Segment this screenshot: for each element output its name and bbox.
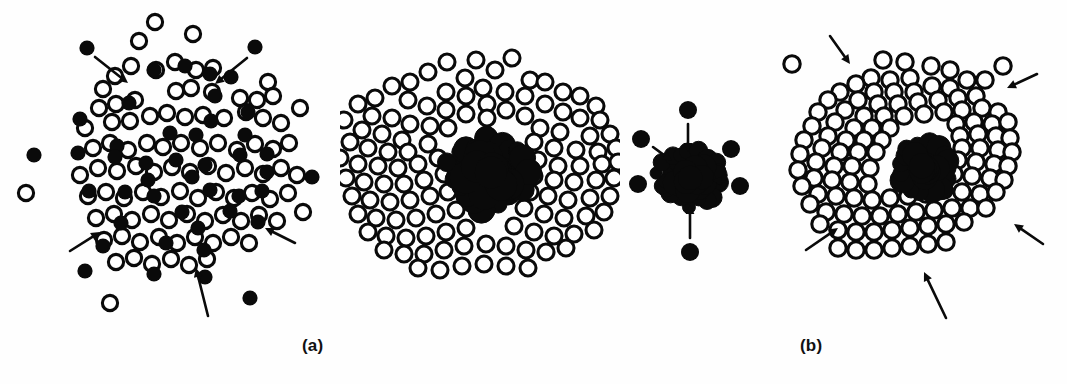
arrow-bottom-right	[273, 232, 295, 243]
open-circle-particle	[269, 213, 284, 228]
filled-circle-particle	[190, 220, 205, 235]
open-circle-particle	[959, 72, 975, 88]
open-circle-particle	[842, 174, 858, 190]
open-circle-particle	[241, 235, 256, 250]
open-circle-particle	[295, 204, 310, 219]
open-circle-particle	[454, 258, 470, 274]
open-circle-particle	[558, 240, 574, 256]
panel-label-b: (b)	[800, 336, 822, 356]
open-circle-particle	[161, 212, 176, 227]
panel-a-right-canvas	[340, 0, 620, 384]
open-circle-particle	[954, 184, 970, 200]
aggregated-cluster-fill	[678, 166, 702, 190]
open-circle-particle	[522, 72, 538, 88]
open-circle-particle	[572, 110, 588, 126]
open-circle-particle	[517, 88, 533, 104]
open-circle-particle	[498, 258, 514, 274]
open-circle-particle	[988, 184, 1004, 200]
panel-label-a: (a)	[302, 336, 323, 356]
filled-circle-particle	[231, 188, 246, 203]
open-circle-particle	[475, 80, 491, 96]
arrow-bottom-left	[70, 237, 92, 251]
open-circle-particle	[438, 84, 454, 100]
open-circle-particle	[143, 206, 158, 221]
open-circle-particle	[902, 238, 918, 254]
open-circle-particle	[402, 74, 418, 90]
open-circle-particle	[155, 139, 170, 154]
open-circle-particle	[520, 260, 536, 276]
open-circle-particle	[866, 242, 882, 258]
open-circle-particle	[360, 140, 376, 156]
open-circle-particle	[846, 190, 862, 206]
filled-circle-particle	[259, 146, 274, 161]
open-circle-particle	[456, 238, 472, 254]
open-circle-particle	[792, 146, 808, 162]
open-circle-particle	[419, 98, 435, 114]
filled-circle-particle	[158, 235, 173, 250]
open-circle-particle	[479, 110, 495, 126]
open-circle-particle	[410, 156, 426, 172]
open-circle-particle	[402, 192, 418, 208]
open-circle-particle	[402, 116, 418, 132]
filled-circle-particle	[202, 66, 217, 81]
filled-circle-particle	[70, 145, 85, 160]
filled-circle-particle	[162, 125, 177, 140]
filled-circle-particle	[304, 169, 319, 184]
aggregated-cluster-fill	[475, 157, 507, 189]
open-circle-particle	[273, 115, 288, 130]
arrow-bottom	[928, 280, 946, 318]
open-circle-particle	[114, 228, 129, 243]
open-circle-particle	[546, 172, 562, 188]
open-circle-particle	[367, 90, 383, 106]
open-circle-particle	[938, 234, 954, 250]
open-circle-particle	[556, 210, 572, 226]
open-circle-particle	[436, 242, 452, 258]
filled-circle-particle	[222, 203, 237, 218]
filled-circle-particle	[77, 263, 92, 278]
open-circle-particle	[432, 262, 448, 278]
filled-circle-particle	[177, 58, 192, 73]
open-circle-particle	[139, 135, 154, 150]
open-circle-particle	[422, 118, 438, 134]
open-circle-particle	[555, 84, 571, 100]
open-circle-particle	[848, 242, 864, 258]
filled-circle-particle	[138, 155, 153, 170]
filled-circle-particle	[629, 175, 647, 193]
open-circle-particle	[540, 188, 556, 204]
open-circle-particle	[102, 295, 117, 310]
open-circle-particle	[517, 108, 533, 124]
open-circle-particle	[977, 72, 993, 88]
open-circle-particle	[362, 192, 378, 208]
filled-circle-particle	[95, 238, 110, 253]
open-circle-particle	[497, 84, 513, 100]
filled-circle-particle	[247, 39, 262, 54]
open-circle-particle	[408, 210, 424, 226]
open-circle-particle	[897, 54, 913, 70]
open-circle-particle	[396, 246, 412, 262]
aggregated-cluster-fill	[909, 153, 934, 178]
filled-circle-particle	[197, 157, 212, 172]
open-circle-particle	[382, 194, 398, 210]
panel-a-left-canvas	[0, 0, 350, 384]
filled-circle-particle	[232, 147, 247, 162]
open-circle-particle	[566, 174, 582, 190]
open-circle-particle	[555, 104, 571, 120]
open-circle-particle	[568, 142, 584, 158]
open-circle-particle	[890, 206, 906, 222]
open-circle-particle	[108, 254, 123, 269]
filled-circle-particle	[679, 101, 697, 119]
open-circle-particle	[478, 236, 494, 252]
open-circle-particle	[418, 228, 434, 244]
open-circle-particle	[292, 100, 307, 115]
filled-circle-particle	[26, 147, 41, 162]
open-circle-particle	[396, 176, 412, 192]
open-circle-particle	[582, 128, 598, 144]
open-circle-particle	[95, 81, 110, 96]
filled-circle-particle	[146, 266, 161, 281]
open-circle-particle	[582, 190, 598, 206]
filled-circle-particle	[240, 104, 255, 119]
open-circle-particle	[91, 100, 106, 115]
open-circle-particle	[537, 96, 553, 112]
open-circle-particle	[844, 158, 860, 174]
filled-circle-particle	[681, 243, 699, 261]
